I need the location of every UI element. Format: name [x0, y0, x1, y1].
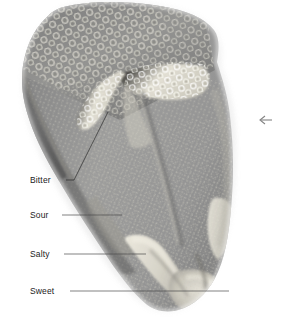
label-sour: Sour [30, 210, 49, 220]
right-arrow-marker [260, 116, 272, 124]
label-sweet: Sweet [30, 286, 55, 296]
label-bitter: Bitter [30, 175, 51, 185]
tongue-body [0, 0, 281, 322]
figure-canvas: Bitter Sour Salty Sweet [0, 0, 281, 322]
tongue-illustration [0, 0, 281, 322]
tongue-taste-zone-figure: Bitter Sour Salty Sweet [0, 0, 281, 322]
taste-zone-labels: Bitter Sour Salty Sweet [30, 175, 55, 296]
label-salty: Salty [30, 249, 50, 259]
